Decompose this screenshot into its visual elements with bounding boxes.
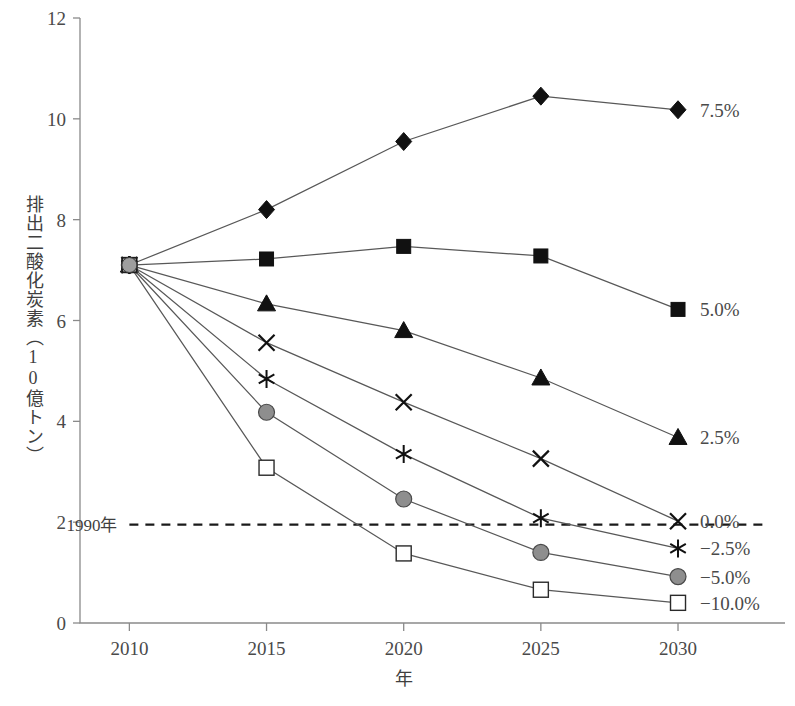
- series--2.5%: [122, 256, 686, 557]
- marker-filled-circle: [533, 544, 549, 560]
- y-tick-label: 2: [57, 512, 67, 533]
- y-tick-label: 6: [57, 311, 67, 332]
- x-axis-title: 年: [395, 669, 413, 689]
- marker-filled-circle: [259, 404, 275, 420]
- marker-filled-diamond: [670, 101, 686, 119]
- marker-filled-triangle: [532, 369, 550, 385]
- x-tick-label: 2010: [110, 638, 148, 659]
- marker-asterisk: [670, 539, 686, 557]
- x-tick-label: 2030: [659, 638, 697, 659]
- marker-filled-diamond: [396, 133, 412, 151]
- marker-asterisk: [396, 445, 412, 463]
- legend-item--2.5%[interactable]: −2.5%: [700, 538, 750, 559]
- y-tick-label: 12: [47, 8, 66, 29]
- legend-label: 7.5%: [700, 100, 740, 121]
- marker-filled-circle: [122, 258, 137, 273]
- x-tick-label: 2015: [248, 638, 286, 659]
- x-tick-label: 2025: [522, 638, 560, 659]
- marker-filled-square: [397, 239, 411, 253]
- marker-open-square: [259, 460, 274, 475]
- marker-filled-triangle: [258, 295, 276, 311]
- marker-open-square: [396, 546, 411, 561]
- series-line: [129, 265, 678, 521]
- marker-filled-square: [260, 252, 274, 266]
- axis-labels-layer: 02468101220102015202020252030年: [47, 8, 697, 689]
- series-layer: [120, 87, 687, 610]
- annotations-layer: 1990年: [66, 516, 765, 535]
- legend-label: 5.0%: [700, 299, 740, 320]
- series-5.0%: [122, 239, 685, 316]
- marker-open-square: [533, 582, 548, 597]
- marker-asterisk: [259, 370, 275, 388]
- marker-filled-diamond: [533, 87, 549, 105]
- marker-filled-circle: [396, 491, 412, 507]
- legend-label: −5.0%: [700, 567, 750, 588]
- y-tick-label: 0: [57, 613, 67, 634]
- marker-cross-x: [259, 335, 275, 351]
- series-0.0%: [121, 257, 686, 529]
- series--10.0%: [122, 258, 686, 611]
- marker-open-square: [671, 595, 686, 610]
- marker-filled-diamond: [259, 201, 275, 219]
- legend-item--5.0%[interactable]: −5.0%: [700, 567, 750, 588]
- marker-cross-x: [533, 451, 549, 467]
- legend-item--10.0%[interactable]: −10.0%: [700, 593, 760, 614]
- x-tick-label: 2020: [385, 638, 423, 659]
- reference-line-label: 1990年: [66, 516, 117, 535]
- y-tick-label: 8: [57, 210, 67, 231]
- legend-layer: 7.5%5.0%2.5%0.0%−2.5%−5.0%−10.0%: [700, 100, 760, 614]
- marker-filled-triangle: [669, 428, 687, 444]
- series--5.0%: [121, 257, 686, 585]
- legend-item-7.5%[interactable]: 7.5%: [700, 100, 740, 121]
- marker-cross-x: [396, 394, 412, 410]
- marker-filled-circle: [670, 569, 686, 585]
- convergence-point-2010: [122, 256, 138, 274]
- legend-item-5.0%[interactable]: 5.0%: [700, 299, 740, 320]
- legend-label: −2.5%: [700, 538, 750, 559]
- series-line: [129, 265, 678, 437]
- series-line: [129, 246, 678, 309]
- marker-filled-square: [671, 302, 685, 316]
- y-tick-label: 4: [57, 411, 67, 432]
- legend-label: 0.0%: [700, 511, 740, 532]
- marker-filled-square: [534, 249, 548, 263]
- marker-cross-x: [670, 513, 686, 529]
- emissions-line-chart: 排出二酸化炭素（10億トン） 1990年 7.5%5.0%2.5%0.0%−2.…: [0, 0, 795, 706]
- series-2.5%: [120, 256, 687, 444]
- plot-area: 1990年 7.5%5.0%2.5%0.0%−2.5%−5.0%−10.0% 0…: [0, 0, 795, 706]
- legend-label: −10.0%: [700, 593, 760, 614]
- legend-item-0.0%[interactable]: 0.0%: [700, 511, 740, 532]
- legend-label: 2.5%: [700, 427, 740, 448]
- legend-item-2.5%[interactable]: 2.5%: [700, 427, 740, 448]
- y-tick-label: 10: [47, 109, 66, 130]
